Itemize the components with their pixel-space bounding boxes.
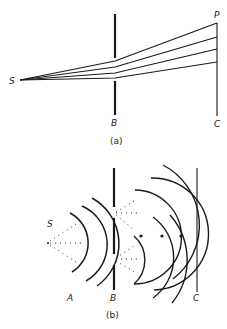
wavefront-a-1 [70,213,88,272]
label-a: A [66,293,73,303]
source-rays [50,224,83,262]
lower-slit-wave-3 [170,215,187,303]
label-c-b: C [193,293,200,303]
figure-a [20,14,217,116]
lower-slit-wave-2 [153,217,174,298]
figure-b [47,165,209,303]
label-s-b: S [47,219,53,229]
intersection-1 [139,234,142,237]
label-p: P [214,10,220,20]
source-point [47,242,49,244]
wavefront-a-2 [82,206,107,281]
upper-slit-wave-3 [163,165,199,279]
ray-1 [20,23,217,80]
caption-a: (a) [110,136,123,146]
label-s-a: S [9,76,15,86]
caption-b: (b) [106,310,119,320]
label-b-a: B [111,118,117,128]
intersection-2 [160,234,163,237]
label-b-b: B [110,293,116,303]
lower-slit-wave-1 [134,236,145,284]
intersection-3 [179,234,182,237]
ray-3 [20,49,217,80]
label-c-a: C [214,119,221,129]
diffraction-diagram: S B P C (a) S [0,0,227,329]
